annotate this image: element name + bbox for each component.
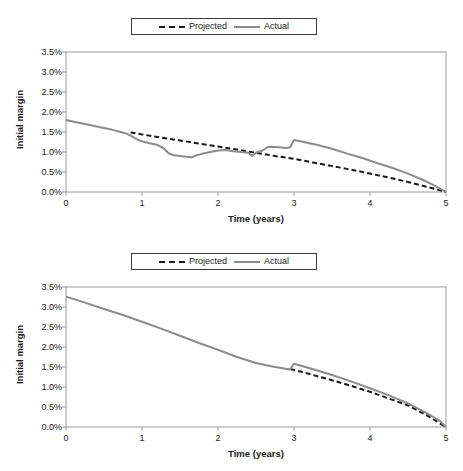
chart-panel-top: Projected Actual Initial margin 3.5% 3.0… bbox=[0, 0, 463, 235]
plot-area-top bbox=[0, 0, 463, 235]
series-line-projected bbox=[290, 369, 446, 427]
chart-panel-bottom: Projected Actual Initial margin 3.5% 3.0… bbox=[0, 235, 463, 471]
figure-container: Projected Actual Initial margin 3.5% 3.0… bbox=[0, 0, 463, 471]
plot-frame bbox=[66, 52, 446, 192]
plot-frame bbox=[66, 287, 446, 427]
plot-area-bottom bbox=[0, 235, 463, 471]
series-line-actual bbox=[66, 297, 446, 427]
series-line-projected bbox=[131, 132, 446, 192]
series-line-actual bbox=[66, 120, 446, 192]
